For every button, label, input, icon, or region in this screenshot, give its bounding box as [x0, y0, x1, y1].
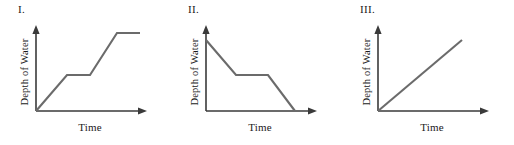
plot-area-1: Depth of Water Time	[0, 0, 172, 145]
y-axis-arrow-icon-3	[374, 25, 381, 34]
graph-panel-1: I. Depth of Water Time	[0, 0, 172, 145]
plot-area-3: Depth of Water Time	[342, 0, 514, 145]
y-axis-label-1: Depth of Water	[19, 38, 30, 105]
x-axis-label-1: Time	[78, 121, 102, 133]
y-axis-arrow-icon-2	[202, 25, 209, 34]
y-axis-label-2: Depth of Water	[189, 38, 200, 105]
x-axis-arrow-icon-2	[308, 107, 317, 114]
y-axis-label-3: Depth of Water	[361, 38, 372, 105]
data-curve-3	[378, 40, 462, 111]
x-axis-arrow-icon-3	[480, 107, 489, 114]
x-axis-label-3: Time	[420, 121, 444, 133]
graph-panel-3: III. Depth of Water Time	[342, 0, 514, 145]
y-axis-arrow-icon-1	[32, 25, 39, 34]
plot-area-2: Depth of Water Time	[170, 0, 342, 145]
data-curve-1	[36, 33, 140, 111]
x-axis-label-2: Time	[248, 121, 272, 133]
x-axis-arrow-icon-1	[138, 107, 147, 114]
data-curve-2	[206, 40, 295, 111]
three-graphs-figure: I. Depth of Water Time II.	[0, 0, 514, 145]
graph-panel-2: II. Depth of Water Time	[170, 0, 342, 145]
